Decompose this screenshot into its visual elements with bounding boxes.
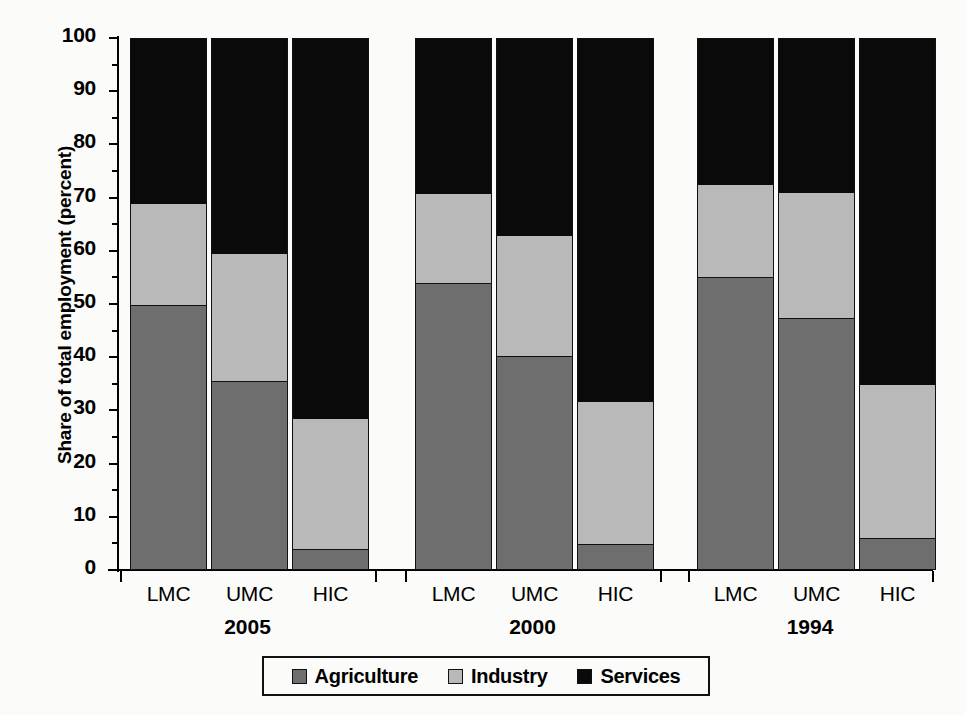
segment-agriculture-1994-LMC [698,278,773,570]
bar-1994-UMC[interactable] [778,38,855,570]
bar-1994-HIC[interactable] [859,38,936,570]
segment-services-2005-HIC [293,39,368,419]
y-tick-label-100: 100 [26,23,96,47]
y-tick-label-80: 80 [26,129,96,153]
legend-label-agriculture: Agriculture [315,665,418,688]
segment-services-1994-LMC [698,39,773,185]
segment-services-1994-UMC [779,39,854,193]
segment-industry-1994-HIC [860,385,935,539]
segment-agriculture-1994-UMC [779,319,854,570]
y-tick-30 [109,409,118,411]
legend-item-industry[interactable]: Industry [448,665,548,688]
y-tick-70 [109,197,118,199]
segment-industry-1994-LMC [698,185,773,278]
y-tick-90 [109,90,118,92]
bar-2000-HIC[interactable] [577,38,654,570]
group-tick-2000-end [660,571,662,582]
bar-2000-UMC[interactable] [496,38,573,570]
group-tick-1994-end [932,571,934,582]
legend-label-services: Services [600,665,680,688]
y-tick-label-50: 50 [26,289,96,313]
group-tick-2000-start [405,571,407,582]
segment-industry-2000-HIC [578,402,653,545]
segment-agriculture-2005-UMC [212,382,287,570]
category-label-2005-HIC: HIC [271,582,391,606]
swatch-agriculture-icon [292,669,307,684]
category-label-1994-HIC: HIC [838,582,958,606]
bar-1994-LMC[interactable] [697,38,774,570]
segment-services-2000-HIC [578,39,653,402]
group-label-2000: 2000 [433,615,633,639]
category-label-2000-HIC: HIC [556,582,676,606]
swatch-industry-icon [448,669,463,684]
y-tick-20 [109,463,118,465]
segment-agriculture-2000-LMC [416,284,491,570]
bar-2005-UMC[interactable] [211,38,288,570]
y-tick-label-30: 30 [26,395,96,419]
segment-industry-2000-UMC [497,236,572,357]
y-tick-50 [109,303,118,305]
segment-services-2005-LMC [131,39,206,204]
segment-services-2005-UMC [212,39,287,254]
y-tick-40 [109,356,118,358]
y-tick-label-20: 20 [26,449,96,473]
bar-2000-LMC[interactable] [415,38,492,570]
segment-industry-2005-UMC [212,254,287,382]
segment-agriculture-1994-HIC [860,539,935,570]
segment-agriculture-2000-HIC [578,545,653,570]
y-tick-label-90: 90 [26,76,96,100]
segment-services-2000-LMC [416,39,491,194]
segment-industry-2005-LMC [131,204,206,306]
y-tick-label-10: 10 [26,502,96,526]
segment-agriculture-2000-UMC [497,357,572,570]
y-tick-label-0: 0 [26,555,96,579]
group-label-1994: 1994 [710,615,910,639]
y-tick-60 [109,250,118,252]
legend-label-industry: Industry [471,665,548,688]
y-tick-10 [109,516,118,518]
bar-2005-LMC[interactable] [130,38,207,570]
group-tick-1994-start [688,571,690,582]
y-tick-0 [109,569,118,571]
segment-industry-2005-HIC [293,419,368,550]
legend-item-agriculture[interactable]: Agriculture [292,665,418,688]
group-label-2005: 2005 [148,615,348,639]
segment-industry-2000-LMC [416,194,491,283]
chart-legend: AgricultureIndustryServices [262,656,710,696]
segment-agriculture-2005-HIC [293,550,368,570]
bar-2005-HIC[interactable] [292,38,369,570]
y-tick-100 [109,37,118,39]
group-tick-2005-start [120,571,122,582]
segment-industry-1994-UMC [779,193,854,320]
segment-services-2000-UMC [497,39,572,236]
legend-item-services[interactable]: Services [577,665,680,688]
y-tick-label-40: 40 [26,342,96,366]
y-tick-80 [109,143,118,145]
segment-agriculture-2005-LMC [131,306,206,570]
segment-services-1994-HIC [860,39,935,385]
y-tick-label-70: 70 [26,183,96,207]
y-tick-label-60: 60 [26,236,96,260]
chart-figure: Share of total employment (percent) 0102… [0,0,966,715]
swatch-services-icon [577,669,592,684]
group-tick-2005-end [375,571,377,582]
